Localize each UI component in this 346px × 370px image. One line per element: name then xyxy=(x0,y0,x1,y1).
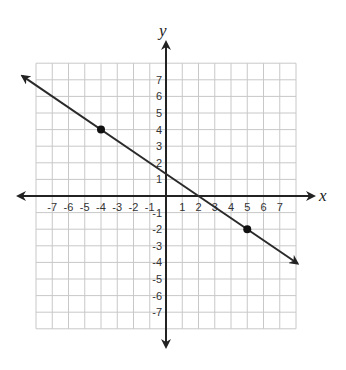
y-axis-label: y xyxy=(157,21,167,40)
plotted-line-left-arrow xyxy=(22,76,160,170)
y-tick-label: 7 xyxy=(156,74,162,86)
y-tick-label: 5 xyxy=(156,107,162,119)
x-tick-label: -2 xyxy=(129,201,139,213)
x-tick-label: 6 xyxy=(260,201,266,213)
x-tick-label: -3 xyxy=(112,201,122,213)
x-tick-label: 4 xyxy=(228,201,234,213)
data-point xyxy=(243,225,251,233)
x-tick-label: -5 xyxy=(80,201,90,213)
x-tick-label: -7 xyxy=(47,201,57,213)
x-tick-label: -6 xyxy=(64,201,74,213)
data-point xyxy=(97,126,105,134)
y-tick-label: -5 xyxy=(152,273,162,285)
x-tick-label: 1 xyxy=(179,201,185,213)
y-tick-label: 4 xyxy=(156,124,162,136)
coordinate-plane: -7-6-5-4-3-2-11234567-7-6-5-4-3-2-112345… xyxy=(0,0,346,370)
x-axis-label: x xyxy=(318,186,327,205)
x-tick-label: 7 xyxy=(277,201,283,213)
y-tick-label: -3 xyxy=(152,240,162,252)
y-tick-label: 1 xyxy=(156,173,162,185)
y-tick-label: 3 xyxy=(156,140,162,152)
y-tick-label: -1 xyxy=(152,207,162,219)
y-tick-label: 6 xyxy=(156,90,162,102)
y-tick-label: -7 xyxy=(152,306,162,318)
x-tick-label: 5 xyxy=(244,201,250,213)
plotted-line-right-arrow xyxy=(160,170,298,264)
x-tick-label: 2 xyxy=(195,201,201,213)
x-tick-label: -4 xyxy=(96,201,106,213)
y-tick-label: -6 xyxy=(152,290,162,302)
data-series xyxy=(22,76,297,264)
y-tick-label: -2 xyxy=(152,223,162,235)
y-tick-label: -4 xyxy=(152,256,162,268)
axes xyxy=(18,42,314,347)
